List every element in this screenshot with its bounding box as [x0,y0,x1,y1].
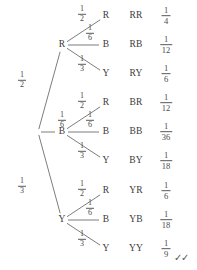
level2-prob-yb-numerator: 1 [87,199,94,207]
level1-prob-y: 13 [18,177,26,195]
outcome-prob-bb-denominator: 36 [160,133,172,142]
level1-node-y: Y [59,215,66,225]
outcome-prob-rb: 112 [160,35,172,55]
outcome-prob-ry-denominator: 6 [162,75,169,84]
outcome-label-yr: YR [129,186,143,196]
level2-node-rr: R [103,11,109,21]
level2-prob-rr: 12 [78,5,86,23]
level2-node-by: Y [103,156,110,166]
probability-tree-diagram: R12B16Y13R12B16Y13R12B16Y13R12B16Y13RR14… [0,0,197,270]
outcome-prob-bb: 136 [160,122,172,142]
outcome-prob-yy-numerator: 1 [162,239,169,248]
level1-prob-r-denominator: 2 [19,81,26,89]
level2-prob-ry-denominator: 3 [79,65,86,73]
level2-prob-by: 13 [78,142,86,160]
outcome-prob-by: 118 [160,151,172,171]
level2-node-br: R [103,98,109,108]
level2-prob-yb: 16 [86,199,94,217]
level2-prob-ry: 13 [78,55,86,73]
outcome-prob-yb: 118 [160,210,172,230]
outcome-label-ry: RY [129,69,142,79]
outcome-prob-yb-numerator: 1 [162,210,169,219]
level2-prob-by-denominator: 3 [79,152,86,160]
outcome-prob-rr-denominator: 4 [162,17,169,26]
level2-prob-br-numerator: 1 [79,92,86,100]
level1-prob-y-denominator: 3 [19,187,26,195]
branch-root-to-r-45 [39,52,60,129]
level1-prob-b: 16 [58,111,66,129]
level2-prob-rr-denominator: 2 [79,15,86,23]
outcome-prob-br: 112 [160,93,172,113]
outcome-label-yb: YB [129,215,143,225]
level2-node-ry: Y [103,69,110,79]
outcome-label-br: BR [129,98,142,108]
outcome-prob-br-denominator: 12 [160,104,172,113]
level1-prob-y-numerator: 1 [19,177,26,185]
level1-prob-b-numerator: 1 [59,111,66,119]
outcome-label-bb: BB [129,127,142,137]
level2-prob-yr-denominator: 2 [79,190,86,198]
level2-prob-br: 12 [78,92,86,110]
level1-prob-r: 12 [18,71,26,89]
branch-root-to-y-220 [39,135,60,213]
outcome-prob-yr-numerator: 1 [162,181,169,190]
level2-prob-rr-numerator: 1 [79,5,86,13]
level2-prob-bb: 16 [86,111,94,129]
level2-prob-yb-denominator: 6 [87,209,94,217]
level2-prob-yy-numerator: 1 [79,230,86,238]
checkmarks-annotation: ✓✓ [174,253,189,263]
outcome-label-yy: YY [129,244,143,254]
outcome-label-by: BY [129,156,143,166]
level2-prob-rb-numerator: 1 [87,24,94,32]
outcome-prob-rb-denominator: 12 [160,46,172,55]
level2-prob-yr-numerator: 1 [79,180,86,188]
level2-node-rb: B [103,40,109,50]
outcome-prob-yr: 16 [162,181,171,201]
outcome-prob-rr: 14 [162,6,171,26]
outcome-prob-yb-denominator: 18 [160,221,172,230]
outcome-prob-by-numerator: 1 [162,151,169,160]
level2-prob-by-numerator: 1 [79,142,86,150]
outcome-prob-ry-numerator: 1 [162,64,169,73]
level2-node-yy: Y [103,244,110,254]
outcome-prob-bb-numerator: 1 [162,122,169,131]
outcome-prob-by-denominator: 18 [160,162,172,171]
outcome-label-rb: RB [129,40,142,50]
level2-prob-bb-numerator: 1 [87,111,94,119]
level2-node-yb: B [103,215,109,225]
level1-node-r: R [59,40,65,50]
outcome-prob-yy: 19 [162,239,171,259]
level2-prob-yy-denominator: 3 [79,240,86,248]
level2-node-bb: B [103,127,109,137]
level2-prob-bb-denominator: 6 [87,121,94,129]
outcome-prob-yr-denominator: 6 [162,192,169,201]
outcome-label-rr: RR [129,11,142,21]
level2-prob-ry-numerator: 1 [79,55,86,63]
level1-prob-r-numerator: 1 [19,71,26,79]
outcome-prob-yy-denominator: 9 [162,250,169,259]
outcome-prob-ry: 16 [162,64,171,84]
level2-prob-yr: 12 [78,180,86,198]
level2-prob-rb: 16 [86,24,94,42]
level2-prob-rb-denominator: 6 [87,34,94,42]
level2-node-yr: R [103,186,109,196]
outcome-prob-rr-numerator: 1 [162,6,169,15]
outcome-prob-br-numerator: 1 [162,93,169,102]
level2-prob-br-denominator: 2 [79,102,86,110]
level1-prob-b-denominator: 6 [59,121,66,129]
outcome-prob-rb-numerator: 1 [162,35,169,44]
level2-prob-yy: 13 [78,230,86,248]
